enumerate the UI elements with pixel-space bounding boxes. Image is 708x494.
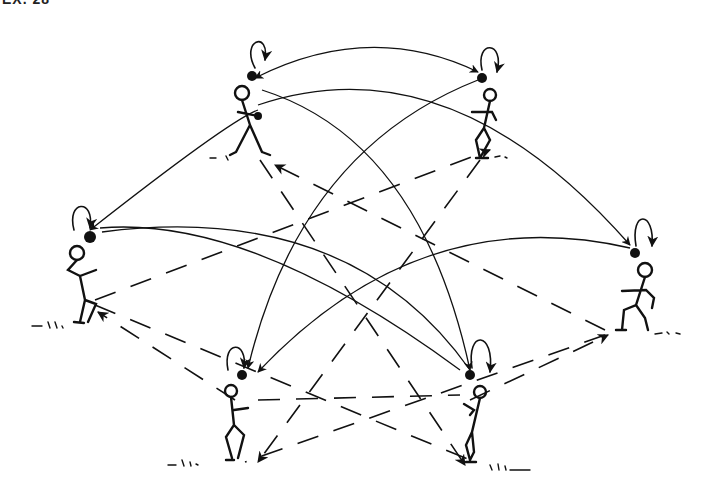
self-toss-loop-icon <box>73 206 91 230</box>
ball-icon <box>630 248 640 258</box>
self-toss-loop-icon <box>471 340 490 372</box>
self-toss-loop-icon <box>251 42 266 68</box>
ball-icon <box>237 370 247 380</box>
player-bottom-left <box>168 347 248 466</box>
player-top-left <box>210 42 270 160</box>
ball-icon <box>247 71 257 81</box>
ball-icon <box>477 73 487 83</box>
self-toss-loop-icon <box>227 347 244 370</box>
player-bottom-right <box>464 340 530 470</box>
player-top-right <box>472 48 507 158</box>
self-toss-loop-icon <box>635 219 652 246</box>
ball-icon <box>84 231 96 243</box>
passing-drill-diagram <box>0 0 708 494</box>
player-mid-right <box>616 219 680 334</box>
ball-icon <box>465 370 475 380</box>
ground-pass-dashes <box>95 150 608 465</box>
self-toss-loop-icon <box>481 48 498 72</box>
player-mid-left <box>32 206 96 328</box>
